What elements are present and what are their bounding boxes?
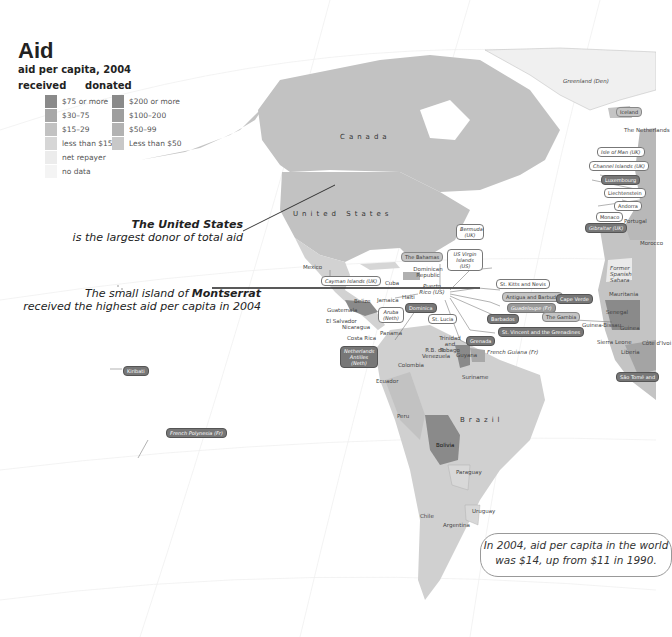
label-puerto-rico: Puerto Rico (US) <box>418 283 446 295</box>
legend-swatch <box>45 137 57 150</box>
legend-donated-heading: donated <box>85 80 132 91</box>
label-us-virgin-islands: US Virgin Islands (US) <box>447 249 483 271</box>
legend-item: less than $15 <box>45 137 113 150</box>
label-costa-rica: Costa Rica <box>347 335 376 341</box>
us-annotation-text: is the largest donor of total aid <box>73 231 243 244</box>
legend-swatch <box>45 95 57 108</box>
label-barbados: Barbados <box>487 314 519 324</box>
legend-label: $50–99 <box>129 125 157 134</box>
legend-item: $75 or more <box>45 95 108 108</box>
label-sierra-leone: Sierra Leone <box>597 339 632 345</box>
montserrat-annotation: The small island of Montserrat received … <box>23 287 261 313</box>
legend-item: $200 or more <box>112 95 180 108</box>
label-netherlands-antilles: Netherlands Antilles (Neth) <box>340 346 378 368</box>
label-cape-verde: Cape Verde <box>556 294 593 304</box>
label-guinea-bissau: Guinea-Bissau <box>582 322 621 328</box>
label-argentina: Argentina <box>443 522 470 528</box>
label-grenada: Grenada <box>466 336 495 346</box>
legend-item: $30–75 <box>45 109 90 122</box>
label-morocco: Morocco <box>640 240 663 246</box>
legend-swatch <box>112 137 124 150</box>
legend-swatch <box>45 151 57 164</box>
label-nicaragua: Nicaragua <box>342 324 370 330</box>
label-suriname: Suriname <box>462 374 488 380</box>
label-paraguay: Paraguay <box>456 469 482 475</box>
label-panama: Panama <box>380 330 402 336</box>
label-iceland: Iceland <box>616 107 642 117</box>
label-haiti: Haiti <box>402 294 415 300</box>
label-belize: Belize <box>354 298 370 304</box>
label-mauritania: Mauritania <box>609 291 638 297</box>
label-greenland: Greenland (Den) <box>563 78 609 84</box>
label-cuba: Cuba <box>385 280 399 286</box>
label-jamaica: Jamaica <box>377 297 399 303</box>
legend-swatch <box>45 123 57 136</box>
label-mexico: Mexico <box>303 264 322 270</box>
label-gambia: The Gambia <box>542 312 580 322</box>
legend-item: $15–29 <box>45 123 90 136</box>
legend-label: net repayer <box>62 153 106 162</box>
label-liberia: Liberia <box>621 349 640 355</box>
label-channel-islands: Channel Islands (UK) <box>589 161 649 171</box>
label-monaco: Monaco <box>596 212 623 222</box>
legend-label: $200 or more <box>129 97 180 106</box>
label-netherlands: The Netherlands <box>624 127 670 133</box>
label-french-guiana: French Guiana (Fr) <box>487 349 539 355</box>
label-st-lucia: St. Lucia <box>428 314 457 324</box>
label-bahamas: The Bahamas <box>401 252 443 262</box>
legend-item: no data <box>45 165 91 178</box>
label-sao-tome: São Tomé and <box>616 372 659 382</box>
label-chile: Chile <box>420 513 434 519</box>
legend-label: $75 or more <box>62 97 108 106</box>
label-guatemala: Guatemala <box>327 307 357 313</box>
legend-swatch <box>112 109 124 122</box>
canada-shape <box>258 55 560 192</box>
montserrat-text: received the highest aid per capita in 2… <box>23 300 261 313</box>
legend-swatch <box>45 109 57 122</box>
legend-swatch <box>45 165 57 178</box>
label-trinidad: Trinidad and Tobago <box>437 335 463 353</box>
label-isle-of-man: Isle of Man (UK) <box>597 147 645 157</box>
legend-item: $50–99 <box>112 123 157 136</box>
label-dominican-republic: Dominican Republic <box>412 266 444 278</box>
label-colombia: Colombia <box>398 362 424 368</box>
label-st-kitts-nevis: St. Kitts and Nevis <box>496 279 550 289</box>
legend-label: less than $15 <box>62 139 113 148</box>
label-cayman-islands: Cayman Islands (UK) <box>321 276 381 286</box>
label-french-polynesia: French Polynesia (Fr) <box>166 428 227 438</box>
label-antigua-barbuda: Antigua and Barbuda <box>502 292 563 302</box>
legend-label: $30–75 <box>62 111 90 120</box>
label-ecuador: Ecuador <box>376 378 398 384</box>
label-brazil: Brazil <box>460 416 504 424</box>
legend-swatch <box>112 123 124 136</box>
label-dominica: Dominica <box>405 303 437 313</box>
legend-item: Less than $50 <box>112 137 182 150</box>
callout-line-2: was $14, up from $11 in 1990. <box>481 553 671 568</box>
legend-item: $100–200 <box>112 109 166 122</box>
us-annotation: The United States is the largest donor o… <box>73 218 243 244</box>
label-aruba: Aruba (Neth) <box>378 307 404 323</box>
label-peru: Peru <box>397 413 409 419</box>
world-aid-callout: In 2004, aid per capita in the world was… <box>480 533 672 577</box>
label-bermuda: Bermuda (UK) <box>456 224 484 240</box>
label-canada: Canada <box>340 133 391 141</box>
map-title: Aid <box>18 38 53 64</box>
label-andorra: Andorra <box>614 201 642 211</box>
label-st-vincent-grenadines: St. Vincent and the Grenadines <box>498 327 584 337</box>
legend-swatch <box>112 95 124 108</box>
label-portugal: Portugal <box>624 218 647 224</box>
legend-label: $100–200 <box>129 111 166 120</box>
label-liechtenstein: Liechtenstein <box>604 188 646 198</box>
label-uruguay: Uruguay <box>472 508 495 514</box>
label-western-sahara: Former Spanish Sahara <box>610 265 634 283</box>
map-subtitle: aid per capita, 2004 <box>18 64 131 75</box>
callout-line-1: In 2004, aid per capita in the world <box>481 538 671 553</box>
label-united-states: United States <box>293 210 392 218</box>
label-kiribati: Kiribati <box>123 366 149 376</box>
legend-label: Less than $50 <box>129 139 182 148</box>
label-guyana: Guyana <box>456 352 477 358</box>
montserrat-pre: The small island of <box>85 287 192 300</box>
legend-received-heading: received <box>18 80 66 91</box>
label-luxembourg: Luxembourg <box>601 175 640 185</box>
us-annotation-title: The United States <box>132 218 243 231</box>
